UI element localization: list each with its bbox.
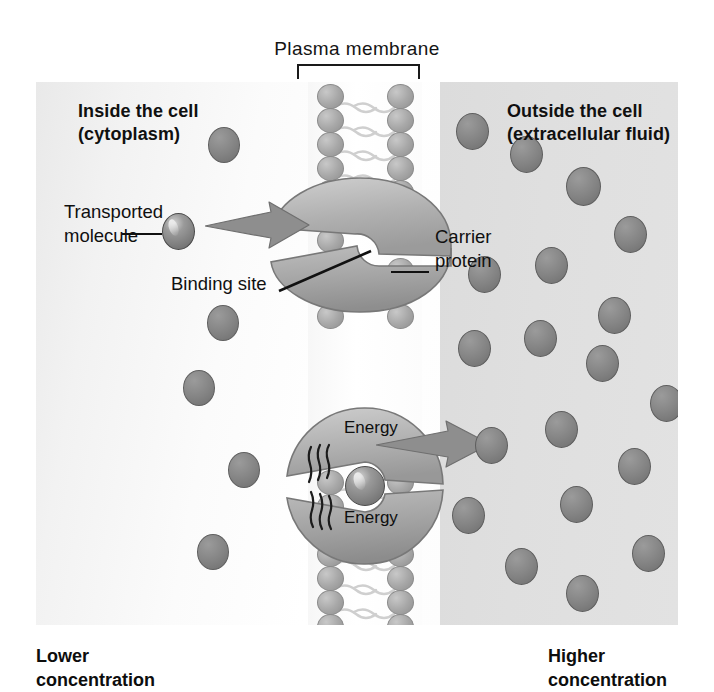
inside-cell-label: Inside the cell (cytoplasm) (78, 100, 199, 147)
outside-cell-label: Outside the cell (extracellular fluid) (507, 100, 670, 147)
lipid-head (387, 132, 414, 157)
lipid-head (387, 590, 414, 615)
lipid-head (317, 566, 344, 591)
carrier-protein-label: Carrier protein (435, 225, 492, 273)
carrier-protein-leader (391, 271, 429, 273)
molecule-outside (618, 448, 651, 485)
molecule-inside (207, 305, 239, 341)
lipid-head (387, 84, 414, 109)
molecule-outside (586, 345, 619, 382)
molecule-outside (545, 411, 578, 448)
molecule-inside (228, 452, 260, 488)
lipid-head (317, 590, 344, 615)
energy-label-top: Energy (344, 418, 398, 438)
molecule-outside (524, 320, 557, 357)
lipid-head (317, 84, 344, 109)
molecule-outside (456, 113, 489, 150)
binding-site-leader (277, 247, 387, 295)
entry-arrow-icon (205, 200, 315, 250)
molecule-outside (560, 486, 593, 523)
transported-molecule (162, 213, 195, 250)
molecule-outside (452, 497, 485, 534)
molecule-outside (475, 427, 508, 464)
molecule-inside (197, 534, 229, 570)
lipid-head (387, 566, 414, 591)
molecule-inside (183, 370, 215, 406)
molecule-outside (566, 167, 601, 206)
molecule-inside (208, 127, 240, 163)
lipid-head (317, 108, 344, 133)
molecule-outside (598, 297, 631, 334)
plasma-membrane-title: Plasma membrane (0, 38, 714, 60)
transported-molecule-label: Transported molecule (64, 200, 163, 248)
bound-transported-molecule (345, 466, 385, 506)
plasma-membrane-bracket (297, 64, 420, 79)
illustration-frame: Inside the cell (cytoplasm) Outside the … (36, 82, 678, 625)
molecule-outside (650, 385, 678, 422)
transported-molecule-leader (122, 233, 162, 235)
higher-concentration-label: Higher concentration (548, 644, 667, 692)
diagram-canvas: Plasma membrane (0, 0, 714, 692)
energy-label-bottom: Energy (344, 508, 398, 528)
lipid-head (317, 132, 344, 157)
molecule-outside (566, 575, 599, 612)
molecule-outside (505, 548, 538, 585)
molecule-outside (632, 535, 665, 572)
molecule-outside (458, 330, 491, 367)
molecule-outside (614, 216, 647, 253)
lower-concentration-label: Lower concentration (36, 644, 155, 692)
molecule-outside (535, 247, 568, 284)
lipid-head (387, 108, 414, 133)
binding-site-label: Binding site (171, 272, 267, 296)
